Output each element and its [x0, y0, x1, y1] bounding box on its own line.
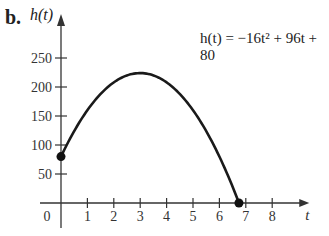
y-tick-label: 250	[31, 51, 52, 66]
x-tick-label: 6	[216, 209, 223, 224]
x-axis-label: t	[305, 207, 310, 223]
data-point-marker	[234, 199, 243, 208]
x-tick-label: 2	[110, 209, 117, 224]
x-tick-label: 7	[242, 209, 249, 224]
y-tick-label: 200	[31, 80, 52, 95]
y-tick-label: 50	[38, 167, 52, 182]
x-tick-label: 8	[269, 209, 276, 224]
x-tick-label: 5	[190, 209, 197, 224]
x-tick-label: 1	[84, 209, 91, 224]
x-tick-label: 3	[137, 209, 144, 224]
curve-h-of-t	[61, 73, 239, 203]
data-point-marker	[57, 152, 66, 161]
chart-plot: 012345678t50100150200250	[0, 0, 329, 236]
y-axis-arrow-icon	[57, 14, 65, 26]
y-tick-label: 150	[31, 109, 52, 124]
x-tick-label: 4	[163, 209, 170, 224]
x-axis-arrow-icon	[299, 199, 309, 207]
x-tick-label: 0	[44, 209, 51, 224]
y-tick-label: 100	[31, 138, 52, 153]
